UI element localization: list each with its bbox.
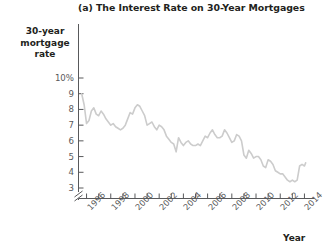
- axes-group: [75, 24, 315, 201]
- plot-area: [0, 0, 329, 249]
- data-line-mortgage-rate: [82, 94, 306, 182]
- chart-figure: (a) The Interest Rate on 30-Year Mortgag…: [0, 0, 329, 249]
